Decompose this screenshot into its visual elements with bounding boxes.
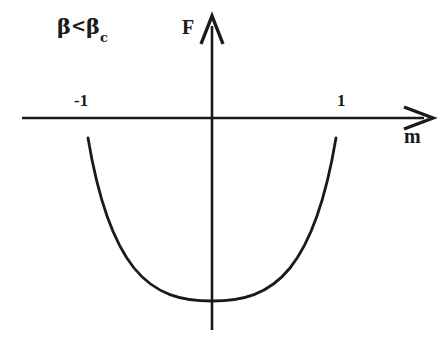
- plot-canvas: [0, 0, 446, 342]
- x-axis-title: m: [404, 126, 421, 146]
- beta-symbol: β: [57, 14, 71, 39]
- x-tick-label-negative-one: -1: [74, 92, 88, 109]
- free-energy-figure: β<βc F m -1 1: [0, 0, 446, 342]
- phase-condition-label: β<βc: [57, 16, 108, 41]
- y-axis-title: F: [182, 17, 194, 37]
- y-axis-group: [201, 16, 223, 330]
- x-axis-group: [22, 107, 433, 129]
- beta-c-subscript: c: [100, 30, 108, 45]
- x-tick-label-positive-one: 1: [337, 92, 346, 109]
- less-than-symbol: <: [71, 15, 86, 36]
- beta-c-symbol: β: [86, 14, 100, 39]
